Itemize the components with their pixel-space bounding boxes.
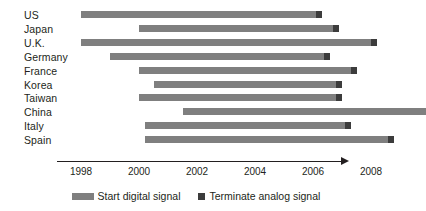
start-digital-signal-bar [110, 53, 330, 60]
start-digital-signal-bar [145, 136, 394, 143]
x-tick-label-2000: 2000 [119, 166, 159, 177]
start-digital-signal-bar [139, 67, 357, 74]
terminate-analog-signal-marker [333, 25, 339, 32]
legend-bar-swatch-icon [72, 193, 94, 200]
terminate-analog-signal-marker [336, 81, 342, 88]
terminate-analog-signal-marker [324, 53, 330, 60]
plot-area [0, 0, 392, 155]
axis-line [57, 161, 343, 162]
start-digital-signal-bar [183, 108, 426, 115]
terminate-analog-signal-marker [345, 122, 351, 129]
x-tick-label-2008: 2008 [351, 166, 391, 177]
time-axis: 199820002002200420062008 [0, 154, 392, 194]
start-digital-signal-bar [154, 81, 343, 88]
legend-label: Terminate analog signal [209, 191, 320, 202]
x-tick-label-2002: 2002 [177, 166, 217, 177]
legend-label: Start digital signal [98, 191, 181, 202]
start-digital-signal-bar [81, 39, 377, 46]
terminate-analog-signal-marker [351, 67, 357, 74]
legend-item[interactable]: Terminate analog signal [198, 191, 320, 202]
start-digital-signal-bar [81, 11, 322, 18]
legend-item[interactable]: Start digital signal [72, 191, 181, 202]
start-digital-signal-bar [139, 25, 339, 32]
start-digital-signal-bar [145, 122, 351, 129]
terminate-analog-signal-marker [336, 94, 342, 101]
x-tick-label-2006: 2006 [293, 166, 333, 177]
terminate-analog-signal-marker [388, 136, 394, 143]
x-tick-label-1998: 1998 [61, 166, 101, 177]
legend-square-swatch-icon [198, 193, 205, 200]
terminate-analog-signal-marker [316, 11, 322, 18]
axis-arrow-icon [341, 157, 349, 165]
chart-legend: Start digital signalTerminate analog sig… [0, 189, 392, 203]
terminate-analog-signal-marker [371, 39, 377, 46]
x-tick-label-2004: 2004 [235, 166, 275, 177]
start-digital-signal-bar [139, 94, 342, 101]
